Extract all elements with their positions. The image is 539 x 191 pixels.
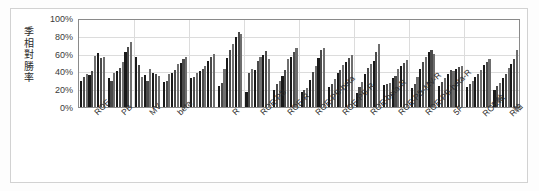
bar	[265, 51, 267, 107]
chart-figure: 季相對勝率 0%20%40%60%80%100% ROEPBMVbetaRROE…	[0, 0, 539, 191]
bar	[122, 62, 124, 107]
bar	[166, 81, 168, 107]
bar	[312, 72, 314, 107]
bar	[94, 56, 96, 107]
bar-group	[135, 20, 163, 107]
bar	[257, 61, 259, 107]
bar	[226, 58, 228, 107]
bar	[248, 73, 250, 107]
bar	[80, 81, 82, 107]
bar	[229, 50, 231, 107]
bar	[221, 83, 223, 107]
y-axis-tick-labels: 0%20%40%60%80%100%	[36, 14, 75, 109]
bar-group	[245, 20, 273, 107]
bar	[202, 69, 204, 107]
bar	[240, 34, 242, 107]
bar	[508, 68, 510, 107]
bar	[262, 55, 264, 107]
bar-group	[163, 20, 191, 107]
bar	[135, 57, 137, 107]
y-axis-tick-60: 60%	[55, 50, 73, 60]
bar	[287, 59, 289, 107]
bar	[141, 77, 143, 107]
bar	[138, 65, 140, 107]
bar	[218, 86, 220, 107]
bar	[146, 81, 148, 107]
bar	[232, 44, 234, 107]
bar	[163, 82, 165, 107]
bar	[210, 57, 212, 107]
bar	[505, 74, 507, 107]
bar	[207, 61, 209, 107]
bar	[309, 80, 311, 107]
bar	[223, 69, 225, 107]
bar	[238, 32, 240, 107]
bar	[315, 66, 317, 107]
bar	[168, 74, 170, 107]
bar-group	[108, 20, 136, 107]
bar	[116, 71, 118, 107]
bar	[259, 57, 261, 107]
y-axis-tick-100: 100%	[50, 14, 73, 24]
y-axis-tick-0: 0%	[60, 103, 73, 113]
bar	[113, 73, 115, 107]
bar	[284, 70, 286, 107]
y-axis-title: 季相對勝率	[21, 26, 36, 84]
bar	[149, 69, 151, 107]
bar	[97, 53, 99, 107]
bar	[235, 37, 237, 107]
bar	[144, 75, 146, 107]
bar	[83, 77, 85, 107]
bar	[213, 54, 215, 107]
bar	[199, 71, 201, 107]
bar	[375, 52, 377, 107]
bar	[124, 52, 126, 107]
bar	[193, 77, 195, 107]
bar-group	[190, 20, 218, 107]
x-axis-tick-labels: ROEPBMVbetaRROE-PBROE-RROE-PB-betaROE-PB…	[78, 110, 520, 180]
bar	[254, 70, 256, 107]
bar	[466, 87, 468, 107]
bar	[251, 69, 253, 107]
bar	[477, 74, 479, 107]
y-axis-tick-20: 20%	[55, 85, 73, 95]
bar	[119, 68, 121, 107]
bar	[180, 63, 182, 107]
bar	[196, 73, 198, 107]
bar	[480, 70, 482, 107]
bar	[469, 84, 471, 107]
bar	[174, 70, 176, 107]
bar	[245, 92, 247, 107]
bar	[130, 42, 132, 107]
y-axis-tick-80: 80%	[55, 32, 73, 42]
bar	[472, 81, 474, 107]
bar	[88, 75, 90, 107]
bar	[171, 73, 173, 107]
bar	[204, 66, 206, 107]
y-axis-tick-40: 40%	[55, 67, 73, 77]
bar	[317, 58, 319, 107]
bar	[290, 57, 292, 107]
bar-group	[466, 20, 494, 107]
bar	[177, 64, 179, 108]
bar	[483, 65, 485, 107]
bar	[127, 47, 129, 107]
bar	[510, 64, 512, 108]
bar	[320, 50, 322, 107]
bar	[474, 77, 476, 107]
bar-group	[80, 20, 108, 107]
bar	[91, 71, 93, 107]
bar-group	[218, 20, 246, 107]
bar	[86, 74, 88, 107]
